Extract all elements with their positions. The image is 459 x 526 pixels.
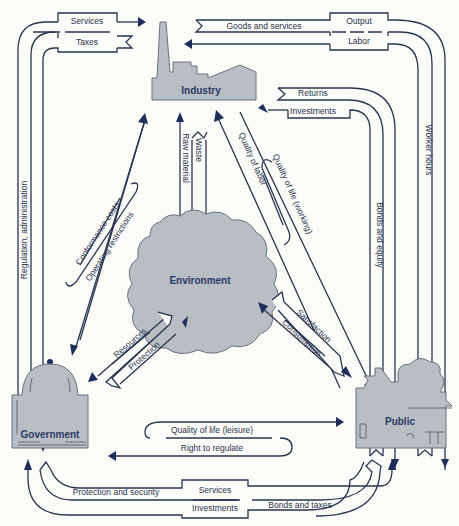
industry-node[interactable]: Industry <box>152 22 256 100</box>
arrowhead-icon <box>24 459 32 470</box>
label-waste: Waste <box>194 138 204 162</box>
government-node[interactable]: Government <box>12 359 88 448</box>
label-labor: Labor <box>348 36 370 46</box>
label-services-bottom: Services <box>199 485 232 495</box>
label-quality-of-life-leisure: Quality of life (leisure) <box>171 425 253 435</box>
label-bonds-and-taxes: Bonds and taxes <box>268 500 331 510</box>
label-raw-material: Raw material <box>181 133 191 183</box>
arrowhead-icon <box>258 104 268 113</box>
arrowhead-icon <box>441 459 449 468</box>
arrowhead-icon <box>336 417 344 427</box>
label-right-to-regulate: Right to regulate <box>181 443 244 453</box>
government-label: Government <box>21 429 81 440</box>
flow-leisure-regulate: Quality of life (leisure) Right to regul… <box>108 417 344 461</box>
label-bonds-and-equity: Bonds and equity <box>375 202 385 268</box>
arrowhead-icon <box>108 451 116 461</box>
label-protection-and-security: Protection and security <box>73 487 160 497</box>
arrowhead-icon <box>138 17 146 27</box>
flow-bottom-services-investments: Protection and security Services Investm… <box>24 459 396 518</box>
label-investments-top: Investments <box>290 106 336 116</box>
flow-diagram: Services Taxes Regulation, administratio… <box>0 0 459 526</box>
environment-node[interactable]: Environment <box>127 210 278 354</box>
label-regulation-administration: Regulation, administration <box>19 181 29 280</box>
label-services-top: Services <box>71 16 104 26</box>
arrowhead-icon <box>176 112 184 122</box>
label-returns: Returns <box>298 88 328 98</box>
arrowhead-icon <box>88 372 98 382</box>
arrowhead-icon <box>70 344 78 356</box>
public-label: Public <box>385 416 415 427</box>
arrowhead-icon <box>138 113 148 124</box>
environment-label: Environment <box>169 275 231 286</box>
label-output: Output <box>346 16 372 26</box>
label-worker-hours: Worker hours <box>424 125 434 176</box>
label-goods-and-services: Goods and services <box>226 21 301 31</box>
arrowhead-icon <box>184 39 192 49</box>
label-investments-bottom: Investments <box>192 503 238 513</box>
label-taxes: Taxes <box>76 37 98 47</box>
industry-label: Industry <box>181 85 221 96</box>
